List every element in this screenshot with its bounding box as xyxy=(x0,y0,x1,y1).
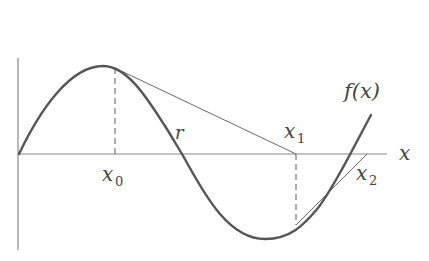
x0-label-sub: 0 xyxy=(115,174,123,189)
function-curve xyxy=(19,66,371,239)
x2-label-base: x xyxy=(356,161,367,185)
x0-label-base: x xyxy=(102,162,113,186)
x2-label-sub: 2 xyxy=(369,173,377,188)
x-axis-label: x xyxy=(399,141,410,165)
x0-label: x 0 xyxy=(102,162,123,189)
x1-label: x 1 xyxy=(284,119,305,146)
tangent-line-x0 xyxy=(115,68,296,154)
newton-method-diagram: f(x) x r x 0 x 1 x 2 xyxy=(0,0,429,261)
x1-label-base: x xyxy=(284,119,295,143)
x1-label-sub: 1 xyxy=(297,131,305,146)
x2-label: x 2 xyxy=(356,161,377,188)
function-label: f(x) xyxy=(342,79,380,103)
root-label: r xyxy=(175,122,185,143)
